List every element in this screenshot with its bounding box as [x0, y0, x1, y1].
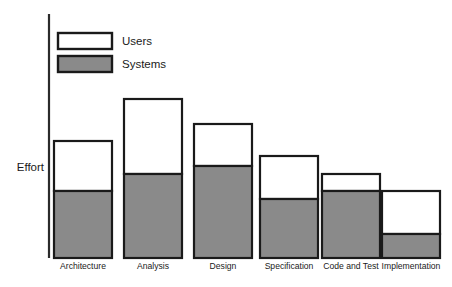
- category-label: Specification: [265, 261, 314, 271]
- legend-label-systems: Systems: [122, 58, 166, 70]
- effort-distribution-chart: Effort ArchitectureAnalysisDesignSpecifi…: [0, 0, 452, 287]
- bar-segment-users: [194, 124, 252, 166]
- bar-segment-users: [54, 141, 112, 191]
- category-label: Implementation: [382, 261, 441, 271]
- bar-group: [54, 99, 440, 258]
- bar-segment-systems: [382, 234, 440, 258]
- chart-legend: UsersSystems: [58, 33, 166, 72]
- bar-segment-systems: [54, 191, 112, 258]
- bar-segment-systems: [124, 174, 182, 258]
- category-label: Design: [210, 261, 237, 271]
- bar-segment-users: [124, 99, 182, 174]
- category-label-group: ArchitectureAnalysisDesignSpecificationC…: [60, 261, 441, 271]
- bar-segment-systems: [194, 166, 252, 258]
- category-label: Code and Test: [323, 261, 379, 271]
- bar-segment-users: [322, 174, 380, 191]
- y-axis-label: Effort: [17, 161, 45, 173]
- legend-swatch-users: [58, 33, 112, 49]
- bar-segment-users: [260, 156, 318, 199]
- chart-canvas: Effort ArchitectureAnalysisDesignSpecifi…: [0, 0, 452, 287]
- bar-segment-systems: [322, 191, 380, 258]
- category-label: Architecture: [60, 261, 106, 271]
- legend-label-users: Users: [122, 35, 152, 47]
- legend-swatch-systems: [58, 56, 112, 72]
- category-label: Analysis: [137, 261, 169, 271]
- bar-segment-systems: [260, 199, 318, 258]
- bar-segment-users: [382, 191, 440, 234]
